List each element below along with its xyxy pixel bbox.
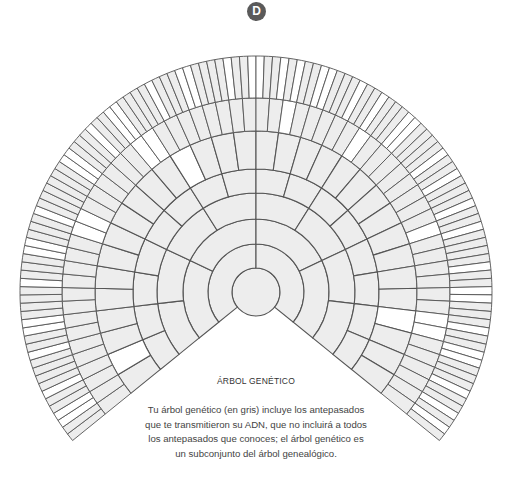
ancestor-cell — [417, 288, 450, 302]
diagram-caption: Tu árbol genético (en gris) incluye los … — [136, 403, 376, 461]
ancestor-cell — [248, 56, 256, 98]
diagram-title: ÁRBOL GENÉTICO — [0, 376, 512, 386]
ancestor-cell — [62, 288, 95, 302]
ancestor-cell — [20, 294, 62, 303]
ancestor-cell — [95, 288, 134, 311]
ancestor-cell — [450, 287, 492, 295]
ancestor-cell — [222, 169, 256, 197]
caption-line: los antepasados que conoces; el árbol ge… — [136, 432, 376, 447]
ancestor-cell — [133, 272, 158, 306]
caption-line: que te transmitieron su ADN, que no incl… — [136, 418, 376, 433]
caption-line: Tu árbol genético (en gris) incluye los … — [136, 403, 376, 418]
ancestor-cell — [354, 272, 379, 306]
ancestor-cell — [416, 274, 450, 288]
caption-line: un subconjunto del árbol genealógico. — [136, 447, 376, 462]
ancestor-cell — [242, 98, 256, 131]
